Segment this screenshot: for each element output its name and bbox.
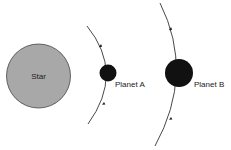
- planet-a-label: Planet A: [115, 80, 145, 89]
- planet-b-label: Planet B: [194, 80, 224, 89]
- direction-arrow-icon: [169, 117, 172, 120]
- star-label: Star: [31, 72, 46, 81]
- planet-b: Planet B: [165, 59, 224, 89]
- orbit-diagram: Star Planet A Planet B: [0, 0, 231, 150]
- direction-arrow-icon: [102, 102, 105, 105]
- star: Star: [7, 44, 71, 108]
- planet-a: Planet A: [100, 65, 146, 90]
- direction-arrow-icon: [169, 27, 172, 30]
